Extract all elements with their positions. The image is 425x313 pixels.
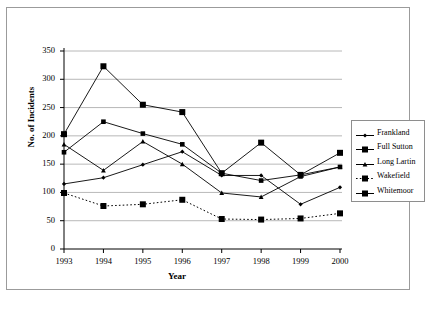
- series-long-lartin: [62, 139, 343, 199]
- x-tick-label: 1994: [86, 256, 120, 266]
- y-axis-title: No. of Incidents: [26, 69, 36, 165]
- x-tick-label: 1998: [244, 256, 278, 266]
- legend-item-wakefield[interactable]: Wakefield: [355, 169, 422, 184]
- series-wakefield: [61, 190, 343, 223]
- legend-item-label: Long Lartin: [375, 156, 415, 167]
- x-tick-label: 1999: [284, 256, 318, 266]
- legend-item-whitemoor[interactable]: Whitemoor: [355, 183, 422, 198]
- x-tick-label: 2000: [323, 256, 357, 266]
- y-tick-label: 300: [29, 73, 55, 83]
- legend-marker-icon: [355, 141, 375, 152]
- legend-item-full-sutton[interactable]: Full Sutton: [355, 140, 422, 155]
- chart-frame: No. of Incidents Year 050100150200250300…: [6, 7, 410, 290]
- y-tick-label: 50: [29, 215, 55, 225]
- legend-marker-icon: [355, 170, 375, 181]
- y-tick-label: 200: [29, 130, 55, 140]
- x-axis-title: Year: [37, 271, 317, 281]
- y-tick-label: 250: [29, 102, 55, 112]
- x-tick-label: 1996: [165, 256, 199, 266]
- y-tick-label: 350: [29, 45, 55, 55]
- legend-marker-icon: [355, 185, 375, 196]
- legend-marker-icon: [355, 156, 375, 167]
- x-tick-label: 1993: [47, 256, 81, 266]
- y-tick-label: 100: [29, 186, 55, 196]
- y-tick-label: 150: [29, 158, 55, 168]
- legend-marker-icon: [355, 127, 375, 138]
- legend-item-label: Full Sutton: [375, 141, 413, 152]
- legend-item-label: Whitemoor: [375, 185, 413, 196]
- y-tick-label: 0: [29, 243, 55, 253]
- legend-item-long-lartin[interactable]: Long Lartin: [355, 154, 422, 169]
- chart-legend: FranklandFull SuttonLong LartinWakefield…: [351, 120, 425, 202]
- x-tick-label: 1995: [126, 256, 160, 266]
- legend-item-frankland[interactable]: Frankland: [355, 125, 422, 140]
- legend-item-label: Frankland: [375, 127, 409, 138]
- x-tick-label: 1997: [205, 256, 239, 266]
- legend-item-label: Wakefield: [375, 170, 410, 181]
